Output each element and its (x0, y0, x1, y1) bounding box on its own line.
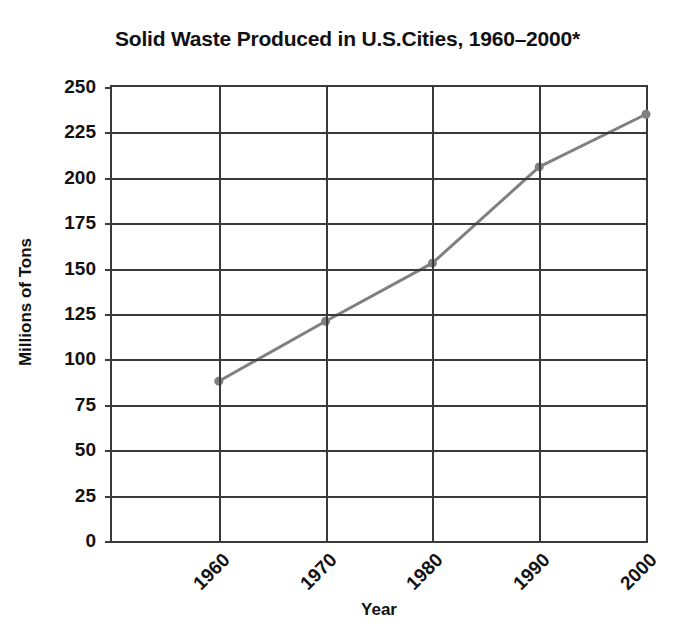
y-axis-tick-mark (105, 223, 112, 225)
y-axis-tick-mark (105, 496, 112, 498)
y-axis-tick-mark (105, 178, 112, 180)
y-axis-tick-mark (105, 87, 112, 89)
data-point-marker (642, 110, 651, 119)
y-axis-tick-label: 25 (11, 485, 96, 507)
y-axis-tick-label: 200 (11, 167, 96, 189)
x-axis-title: Year (110, 600, 648, 620)
chart-container: Solid Waste Produced in U.S.Cities, 1960… (0, 0, 695, 634)
gridline-horizontal (112, 496, 646, 498)
gridline-vertical (219, 87, 221, 541)
y-axis-tick-label: 0 (11, 530, 96, 552)
gridline-horizontal (112, 178, 646, 180)
gridline-horizontal (112, 359, 646, 361)
y-axis-tick-label: 50 (11, 439, 96, 461)
y-axis-tick-mark (105, 269, 112, 271)
y-axis-tick-mark (105, 405, 112, 407)
y-axis-tick-label: 225 (11, 121, 96, 143)
plot-inner (112, 87, 646, 541)
gridline-vertical (326, 87, 328, 541)
y-axis-tick-mark (105, 359, 112, 361)
chart-title: Solid Waste Produced in U.S.Cities, 1960… (0, 27, 695, 51)
gridline-horizontal (112, 269, 646, 271)
gridline-horizontal (112, 314, 646, 316)
x-axis-tick-label: 1960 (77, 549, 234, 634)
y-axis-title: Millions of Tons (16, 202, 36, 402)
y-axis-tick-mark (105, 132, 112, 134)
gridline-horizontal (112, 223, 646, 225)
y-axis-tick-mark (105, 450, 112, 452)
y-axis-tick-label: 250 (11, 76, 96, 98)
gridline-horizontal (112, 132, 646, 134)
gridline-vertical (432, 87, 434, 541)
gridline-vertical (539, 87, 541, 541)
plot-area (110, 85, 648, 543)
y-axis-tick-labels: 0255075100125150175200225250 (0, 85, 96, 543)
gridline-horizontal (112, 450, 646, 452)
y-axis-tick-mark (105, 314, 112, 316)
gridline-horizontal (112, 405, 646, 407)
